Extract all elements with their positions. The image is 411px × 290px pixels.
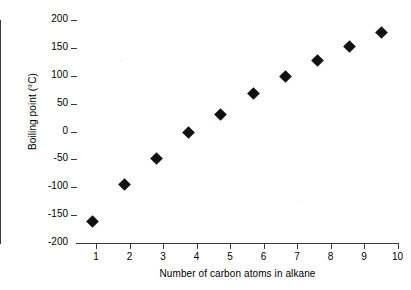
x-tick-mark (197, 243, 198, 249)
y-tick-group: 50 (76, 104, 77, 105)
y-tick-group: -150 (76, 215, 77, 216)
y-tick-group: 0 (76, 132, 77, 133)
x-tick-label: 4 (187, 251, 207, 262)
x-tick-mark (96, 243, 97, 249)
x-tick-group: 1 (96, 243, 97, 244)
y-axis-line (0, 20, 1, 244)
data-point (86, 215, 99, 228)
y-tick-mark (71, 243, 77, 244)
y-axis-title: Boiling point (°C) (27, 32, 38, 192)
x-tick-group: 4 (197, 243, 198, 244)
y-tick-label: -50 (54, 152, 68, 163)
x-tick-mark (297, 243, 298, 249)
boiling-point-scatter-chart: Boiling point (°C) 200 150 100 50 0 -50 (0, 0, 411, 290)
y-tick-label: -200 (48, 236, 68, 247)
data-point (376, 26, 389, 39)
x-tick-mark (230, 243, 231, 249)
x-tick-label: 8 (321, 251, 341, 262)
y-tick-group: -50 (76, 159, 77, 160)
y-tick-group: -100 (76, 187, 77, 188)
x-tick-group: 6 (264, 243, 265, 244)
x-tick-label: 7 (287, 251, 307, 262)
y-tick-label: 200 (51, 13, 68, 24)
y-tick-mark (71, 132, 77, 133)
data-point (279, 70, 292, 83)
y-tick-mark (71, 159, 77, 160)
data-point (311, 54, 324, 67)
y-tick-mark (71, 76, 77, 77)
plot-area: 200 150 100 50 0 -50 -100 -150 (76, 20, 398, 243)
x-tick-group: 5 (230, 243, 231, 244)
y-tick-group: 100 (76, 76, 77, 77)
y-tick-group: -200 (76, 243, 77, 244)
y-tick-mark (71, 48, 77, 49)
x-tick-label: 1 (86, 251, 106, 262)
x-tick-label: 6 (254, 251, 274, 262)
x-tick-label: 3 (153, 251, 173, 262)
data-point (150, 152, 163, 165)
x-tick-label: 2 (120, 251, 140, 262)
y-tick-label: -150 (48, 208, 68, 219)
y-tick-group: 200 (76, 20, 77, 21)
y-tick-mark (71, 20, 77, 21)
y-tick-mark (71, 104, 77, 105)
y-tick-mark (71, 187, 77, 188)
x-tick-mark (398, 243, 399, 249)
x-axis-title: Number of carbon atoms in alkane (76, 268, 399, 279)
data-point (343, 40, 356, 53)
y-tick-label: 50 (57, 97, 68, 108)
data-point (247, 87, 260, 100)
data-point (182, 126, 195, 139)
x-tick-group: 3 (163, 243, 164, 244)
x-tick-mark (264, 243, 265, 249)
y-tick-label: 150 (51, 41, 68, 52)
x-tick-group: 2 (130, 243, 131, 244)
y-tick-label: 100 (51, 69, 68, 80)
x-tick-group: 7 (297, 243, 298, 244)
x-tick-mark (331, 243, 332, 249)
x-tick-mark (163, 243, 164, 249)
y-tick-mark (71, 215, 77, 216)
x-tick-label: 9 (354, 251, 374, 262)
x-axis-line (76, 243, 399, 244)
x-tick-group: 8 (331, 243, 332, 244)
x-tick-group: 9 (364, 243, 365, 244)
x-tick-mark (364, 243, 365, 249)
data-point (118, 178, 131, 191)
x-tick-group: 10 (398, 243, 399, 244)
data-point (215, 108, 228, 121)
x-tick-mark (130, 243, 131, 249)
y-tick-group: 150 (76, 48, 77, 49)
x-tick-label: 5 (220, 251, 240, 262)
y-tick-label: -100 (48, 180, 68, 191)
y-tick-label: 0 (62, 125, 68, 136)
x-tick-label: 10 (388, 251, 408, 262)
